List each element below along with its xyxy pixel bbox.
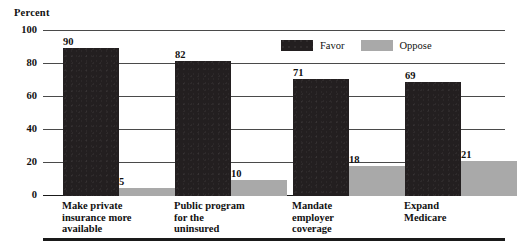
bar-favor: 69: [405, 82, 461, 196]
bar-oppose: 21: [461, 161, 517, 196]
category-label: Mandate employer coverage: [292, 200, 334, 235]
bar-value-label: 71: [293, 67, 304, 78]
bar-favor: 82: [175, 61, 231, 196]
y-axis-tick-label-80: 80: [27, 57, 38, 68]
bar-value-label: 90: [63, 36, 74, 47]
bar-value-label: 5: [119, 176, 124, 187]
chart-legend: FavorOppose: [281, 40, 432, 51]
bar-value-label: 10: [231, 168, 242, 179]
bar-value-label: 21: [461, 149, 472, 160]
y-axis-tick-label-0: 0: [32, 189, 37, 200]
bar-favor: 90: [63, 48, 119, 197]
category-label: Public program for the uninsured: [174, 200, 245, 235]
legend-swatch-favor: [281, 40, 313, 51]
y-axis-tick-label-100: 100: [21, 24, 37, 35]
legend-swatch-oppose: [361, 40, 393, 51]
plot-area: 020406080100905821071186921: [43, 31, 505, 196]
category-label: Expand Medicare: [404, 200, 446, 223]
bar-value-label: 69: [405, 70, 416, 81]
y-axis-tick-label-40: 40: [27, 123, 38, 134]
bar-value-label: 18: [349, 154, 360, 165]
y-axis-title: Percent: [14, 7, 50, 18]
legend-item-oppose: Oppose: [361, 40, 432, 51]
legend-label: Oppose: [400, 40, 432, 51]
bar-oppose: 10: [231, 180, 287, 197]
bar-value-label: 82: [175, 49, 186, 60]
bar-oppose: 18: [349, 166, 405, 196]
bottom-rule: [43, 238, 505, 241]
legend-item-favor: Favor: [281, 40, 345, 51]
y-axis-tick-label-20: 20: [27, 156, 38, 167]
category-label: Make private insurance more available: [62, 200, 132, 235]
legend-label: Favor: [320, 40, 345, 51]
bar-oppose: 5: [119, 188, 175, 196]
gridline-100: 100: [43, 30, 505, 31]
y-axis-tick-label-60: 60: [27, 90, 38, 101]
bar-favor: 71: [293, 79, 349, 196]
